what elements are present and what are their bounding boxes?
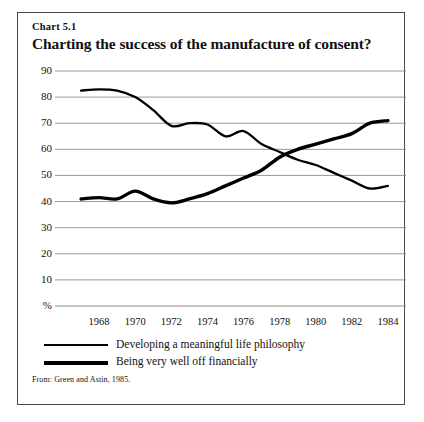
y-tick-label-70: 70: [28, 117, 52, 128]
x-tick-label-1978: 1978: [263, 316, 297, 327]
y-tick-label-80: 80: [28, 91, 52, 102]
figure-frame: Chart 5.1 Charting the success of the ma…: [17, 12, 405, 405]
x-tick-label-1984: 1984: [371, 316, 405, 327]
x-tick-label-1976: 1976: [227, 316, 261, 327]
x-tick-label-1972: 1972: [154, 316, 188, 327]
legend-label-1: Being very well off financially: [116, 355, 258, 367]
legend-swatch-icon-1: [44, 361, 108, 365]
y-tick-label-10: 10: [28, 274, 52, 285]
y-tick-label-50: 50: [28, 169, 52, 180]
y-tick-label-30: 30: [28, 222, 52, 233]
y-tick-label-90: 90: [28, 65, 52, 76]
x-tick-label-1970: 1970: [118, 316, 152, 327]
legend-label-0: Developing a meaningful life philosophy: [116, 338, 305, 350]
y-tick-label-40: 40: [28, 196, 52, 207]
legend-swatch-icon-0: [44, 344, 108, 346]
x-tick-label-1980: 1980: [299, 316, 333, 327]
x-tick-label-1968: 1968: [82, 316, 116, 327]
y-tick-label-20: 20: [28, 248, 52, 259]
source-note: From: Green and Astin, 1985.: [32, 375, 130, 384]
x-tick-label-1982: 1982: [335, 316, 369, 327]
series-line-0: [81, 89, 388, 188]
y-tick-label-%: %: [28, 300, 52, 311]
y-tick-label-60: 60: [28, 143, 52, 154]
x-tick-label-1974: 1974: [190, 316, 224, 327]
